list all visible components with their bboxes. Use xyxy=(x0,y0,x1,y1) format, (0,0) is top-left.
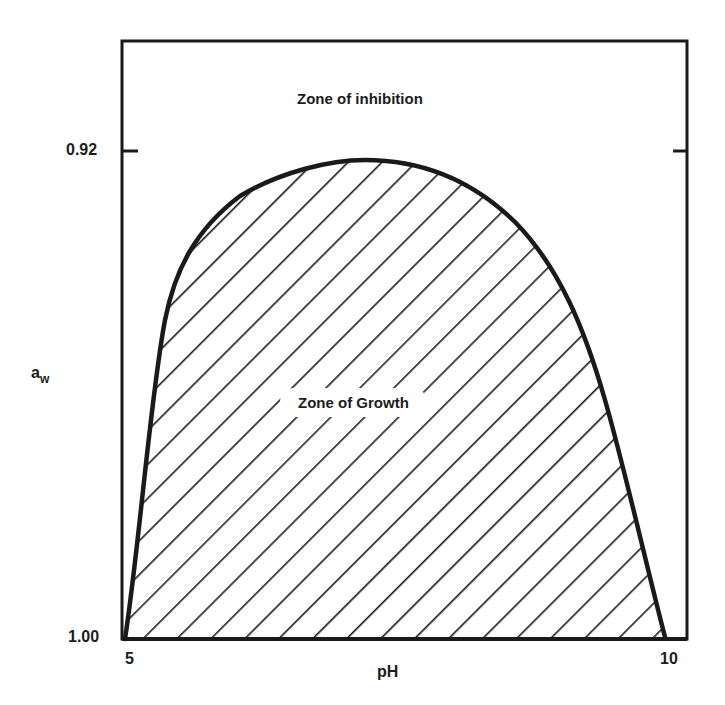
x-tick-label-10: 10 xyxy=(660,650,678,668)
y-axis-title-main: a xyxy=(31,364,40,381)
x-axis-title: pH xyxy=(377,663,398,681)
zone-of-growth-label: Zone of Growth xyxy=(280,388,427,417)
zone-of-inhibition-label: Zone of inhibition xyxy=(297,90,423,107)
y-axis-title-subscript: w xyxy=(40,372,49,386)
y-tick-label-0.92: 0.92 xyxy=(66,141,97,159)
y-axis-title: aw xyxy=(31,364,49,382)
x-tick-label-5: 5 xyxy=(125,650,134,668)
y-tick-label-1.00: 1.00 xyxy=(68,628,99,646)
